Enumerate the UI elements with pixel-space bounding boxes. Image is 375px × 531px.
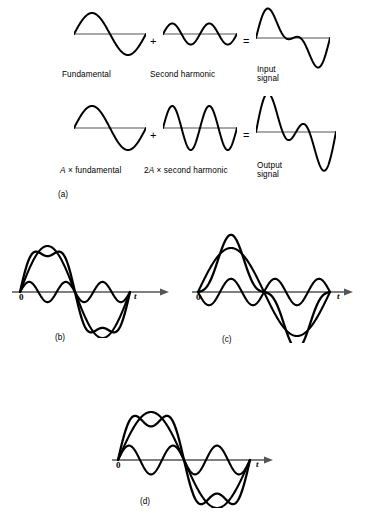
- equation-row-top: + = Fundamental Second harmonic Input si…: [0, 4, 375, 90]
- time-axis-arrow: [264, 457, 273, 464]
- caption-fundamental: Fundamental: [62, 70, 111, 79]
- equals-operator: =: [243, 130, 249, 141]
- panel-c-origin-label: 0: [196, 292, 201, 302]
- waveform-svg-a-top-second: [163, 4, 237, 66]
- waveform-svg-panel-b: [8, 218, 183, 338]
- waveform-svg-panel-d: [108, 378, 286, 508]
- caption-output-signal-line1: Output: [257, 161, 282, 170]
- time-axis-arrow: [344, 289, 353, 296]
- panel-c: [188, 218, 366, 343]
- waveform-2a-second-harmonic: [163, 96, 237, 162]
- caption-output-signal-line2: signal: [257, 170, 279, 179]
- waveform-svg-a-top-fundamental: [74, 4, 146, 66]
- caption-2a-second-harmonic: 2A × second harmonic: [144, 166, 228, 175]
- panel-tag-b: (b): [55, 333, 65, 342]
- panel-tag-d: (d): [140, 497, 150, 506]
- waveform-a-fundamental: [74, 96, 146, 162]
- panel-d-time-label: t: [256, 459, 259, 469]
- waveform-sum: [256, 96, 336, 171]
- time-axis-arrow: [160, 289, 169, 296]
- waveform-fundamental: [74, 4, 146, 66]
- waveform-second-harmonic: [163, 4, 237, 66]
- panel-c-time-label: t: [337, 291, 340, 301]
- plus-operator: +: [150, 130, 156, 141]
- waveform-svg-a-bot-fundamental: [74, 96, 146, 162]
- caption-input-signal-line2: signal: [257, 74, 279, 83]
- plus-operator: +: [150, 36, 156, 47]
- panel-d-origin-label: 0: [116, 460, 121, 470]
- caption-input-signal-line1: Input: [257, 65, 276, 74]
- waveform-svg-panel-c: [188, 218, 366, 343]
- panel-b-time-label: t: [134, 291, 137, 301]
- equals-operator: =: [243, 36, 249, 47]
- equation-row-bottom: + = A × fundamental 2A × second harmonic…: [0, 96, 375, 188]
- panel-d: [108, 378, 286, 508]
- panel-b: [8, 218, 183, 338]
- figure-root: + = Fundamental Second harmonic Input si…: [0, 0, 375, 531]
- panel-b-origin-label: 0: [19, 292, 24, 302]
- caption-second-harmonic: Second harmonic: [150, 70, 215, 79]
- panel-tag-c: (c): [222, 335, 232, 344]
- waveform-svg-a-bot-second: [163, 96, 237, 162]
- caption-a-fundamental: A × fundamental: [60, 166, 121, 175]
- panel-tag-a: (a): [58, 190, 68, 199]
